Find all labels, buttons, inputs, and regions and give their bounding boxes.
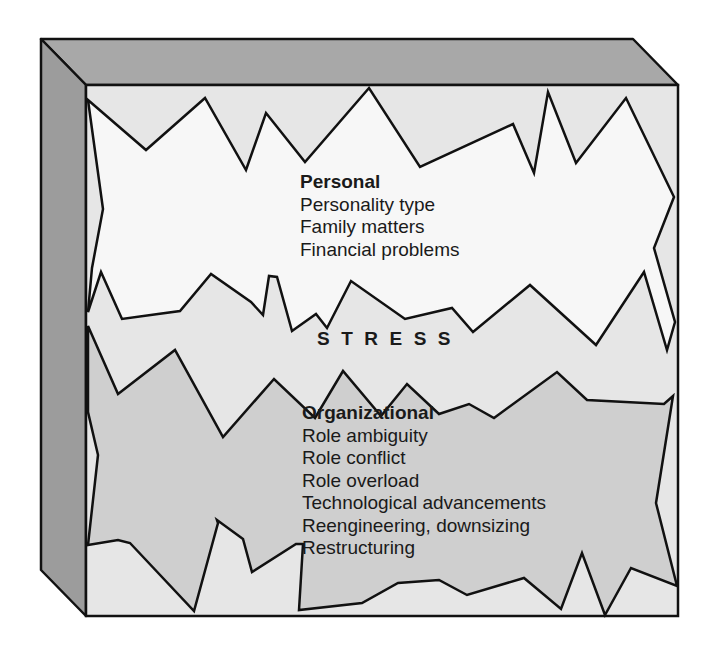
personal-item: Personality type (300, 194, 459, 217)
organizational-heading: Organizational (302, 402, 546, 425)
organizational-item: Role conflict (302, 447, 546, 470)
organizational-item: Reengineering, downsizing (302, 515, 546, 538)
personal-item: Financial problems (300, 239, 459, 262)
personal-heading: Personal (300, 171, 459, 194)
organizational-item: Restructuring (302, 537, 546, 560)
organizational-factors: Organizational Role ambiguity Role confl… (302, 402, 546, 560)
frame-top-bevel (41, 39, 678, 85)
personal-factors: Personal Personality type Family matters… (300, 171, 459, 261)
organizational-item: Role ambiguity (302, 425, 546, 448)
organizational-item: Role overload (302, 470, 546, 493)
organizational-item: Technological advancements (302, 492, 546, 515)
personal-item: Family matters (300, 216, 459, 239)
frame-left-bevel (41, 39, 86, 616)
stress-label: STRESS (317, 328, 462, 350)
